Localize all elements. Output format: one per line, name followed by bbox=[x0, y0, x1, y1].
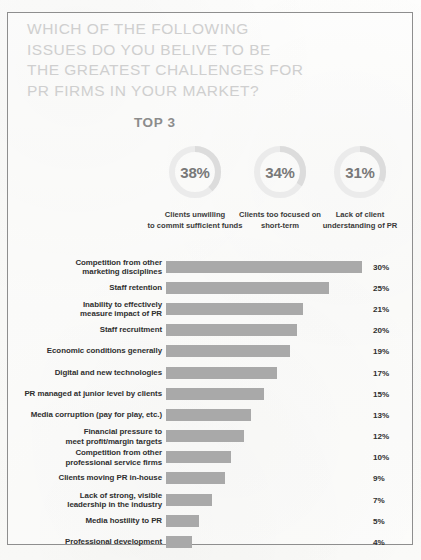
donut-caption-line: Lack of client bbox=[301, 210, 419, 221]
bar-row: Inability to effectivelymeasure impact o… bbox=[0, 298, 421, 319]
page-title: WHICH OF THE FOLLOWINGISSUES DO YOU BELI… bbox=[27, 19, 357, 101]
bar-value-label: 4% bbox=[373, 538, 385, 547]
donut-chart: 34% bbox=[251, 143, 309, 201]
bar-label: Staff recruitment bbox=[0, 325, 162, 334]
bar-fill bbox=[166, 536, 192, 548]
bar-fill bbox=[166, 303, 303, 315]
bar-label: Competition from othermarketing discipli… bbox=[0, 257, 162, 276]
donut-value: 38% bbox=[166, 143, 224, 201]
donut-stat-1: 38%Clients unwillingto commit sufficient… bbox=[166, 143, 224, 231]
page-title-line: WHICH OF THE FOLLOWING bbox=[27, 19, 357, 40]
donut-chart: 38% bbox=[166, 143, 224, 201]
bar-row: Staff retention25% bbox=[0, 277, 421, 298]
bar-label-line: PR managed at junior level by clients bbox=[0, 389, 162, 398]
bar-value-label: 5% bbox=[373, 516, 385, 525]
bar-label-line: leadership in the industry bbox=[0, 500, 162, 509]
bar-row: Competition from otherprofessional servi… bbox=[0, 447, 421, 468]
page-title-line: THE GREATEST CHALLENGES FOR bbox=[27, 60, 357, 81]
bar-value-label: 25% bbox=[373, 283, 389, 292]
bar-label: Financial pressure tomeet profit/margin … bbox=[0, 427, 162, 446]
bar-fill bbox=[166, 472, 225, 484]
bar-label-line: professional service firms bbox=[0, 457, 162, 466]
bar-value-label: 9% bbox=[373, 474, 385, 483]
bar-label-line: meet profit/margin targets bbox=[0, 436, 162, 445]
bar-row: Competition from othermarketing discipli… bbox=[0, 256, 421, 277]
bar-row: Media hostility to PR5% bbox=[0, 510, 421, 531]
bar-label-line: Competition from other bbox=[0, 257, 162, 266]
bar-row: Financial pressure tomeet profit/margin … bbox=[0, 426, 421, 447]
bar-fill bbox=[166, 409, 251, 421]
bar-label: Media hostility to PR bbox=[0, 516, 162, 525]
bar-label-line: Media corruption (pay for play, etc.) bbox=[0, 410, 162, 419]
bar-value-label: 15% bbox=[373, 389, 389, 398]
top3-heading: TOP 3 bbox=[134, 115, 176, 130]
bar-label: Staff retention bbox=[0, 283, 162, 292]
bar-value-label: 10% bbox=[373, 453, 389, 462]
bar-fill bbox=[166, 494, 212, 506]
bar-value-label: 21% bbox=[373, 304, 389, 313]
bar-fill bbox=[166, 388, 264, 400]
bar-row: PR managed at junior level by clients15% bbox=[0, 383, 421, 404]
bar-label-line: Media hostility to PR bbox=[0, 516, 162, 525]
bar-label: Competition from otherprofessional servi… bbox=[0, 448, 162, 467]
bar-label-line: Inability to effectively bbox=[0, 300, 162, 309]
bar-label: Inability to effectivelymeasure impact o… bbox=[0, 300, 162, 319]
bar-fill bbox=[166, 367, 277, 379]
bar-label-line: Clients moving PR in-house bbox=[0, 474, 162, 483]
donut-value: 34% bbox=[251, 143, 309, 201]
bar-label-line: Professional development bbox=[0, 537, 162, 546]
bar-value-label: 17% bbox=[373, 368, 389, 377]
bar-fill bbox=[166, 515, 199, 527]
bar-label: Lack of strong, visibleleadership in the… bbox=[0, 490, 162, 509]
page-title-line: ISSUES DO YOU BELIVE TO BE bbox=[27, 40, 357, 61]
donut-chart: 31% bbox=[331, 143, 389, 201]
page-title-line: PR FIRMS IN YOUR MARKET? bbox=[27, 81, 357, 102]
bar-label-line: Digital and new technologies bbox=[0, 368, 162, 377]
bar-value-label: 20% bbox=[373, 326, 389, 335]
bar-row: Lack of strong, visibleleadership in the… bbox=[0, 489, 421, 510]
bar-label: Digital and new technologies bbox=[0, 368, 162, 377]
donut-caption-line: understanding of PR bbox=[301, 221, 419, 232]
bar-fill bbox=[166, 345, 290, 357]
bar-value-label: 12% bbox=[373, 432, 389, 441]
bar-row: Digital and new technologies17% bbox=[0, 362, 421, 383]
bar-fill bbox=[166, 430, 244, 442]
bar-label-line: measure impact of PR bbox=[0, 309, 162, 318]
bar-label: PR managed at junior level by clients bbox=[0, 389, 162, 398]
bar-label-line: Competition from other bbox=[0, 448, 162, 457]
bar-fill bbox=[166, 324, 297, 336]
bar-label-line: Financial pressure to bbox=[0, 427, 162, 436]
bar-fill bbox=[166, 451, 231, 463]
bar-fill bbox=[166, 282, 329, 294]
bar-label-line: marketing disciplines bbox=[0, 267, 162, 276]
bar-row: Clients moving PR in-house9% bbox=[0, 468, 421, 489]
bar-value-label: 7% bbox=[373, 495, 385, 504]
bar-label-line: Staff retention bbox=[0, 283, 162, 292]
donut-stat-3: 31%Lack of clientunderstanding of PR bbox=[331, 143, 389, 231]
donut-caption: Lack of clientunderstanding of PR bbox=[301, 210, 419, 231]
bar-value-label: 30% bbox=[373, 262, 389, 271]
bar-value-label: 13% bbox=[373, 410, 389, 419]
bar-label: Media corruption (pay for play, etc.) bbox=[0, 410, 162, 419]
bar-row: Professional development4% bbox=[0, 531, 421, 552]
bar-label-line: Staff recruitment bbox=[0, 325, 162, 334]
donut-value: 31% bbox=[331, 143, 389, 201]
bar-label: Clients moving PR in-house bbox=[0, 474, 162, 483]
bar-row: Staff recruitment20% bbox=[0, 320, 421, 341]
bar-row: Economic conditions generally19% bbox=[0, 341, 421, 362]
bar-label-line: Economic conditions generally bbox=[0, 347, 162, 356]
bar-label: Economic conditions generally bbox=[0, 347, 162, 356]
bar-fill bbox=[166, 261, 362, 273]
bar-label: Professional development bbox=[0, 537, 162, 546]
bar-value-label: 19% bbox=[373, 347, 389, 356]
bar-label-line: Lack of strong, visible bbox=[0, 490, 162, 499]
infographic-page: WHICH OF THE FOLLOWINGISSUES DO YOU BELI… bbox=[0, 0, 421, 560]
bar-row: Media corruption (pay for play, etc.)13% bbox=[0, 404, 421, 425]
bar-chart: Competition from othermarketing discipli… bbox=[0, 256, 421, 553]
